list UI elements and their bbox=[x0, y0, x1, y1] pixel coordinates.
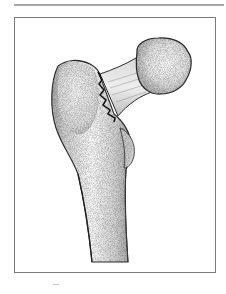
stray-mark bbox=[53, 284, 59, 285]
femur-illustration bbox=[0, 0, 226, 294]
